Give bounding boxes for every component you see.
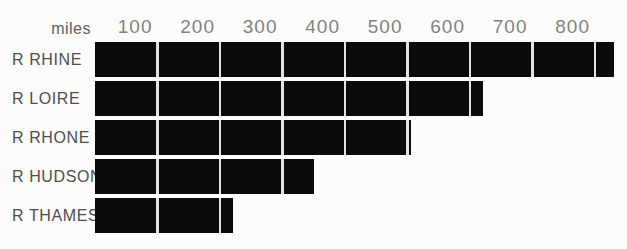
gridline [406, 81, 409, 116]
bar [95, 42, 614, 77]
category-label: R RHINE [12, 42, 82, 77]
category-label: R THAMES [12, 198, 99, 233]
category-label: R LOIRE [12, 81, 80, 116]
category-label: R HUDSON [12, 159, 102, 194]
gridline [344, 120, 347, 155]
river-lengths-bar-chart: miles 100200300400500600700800 R RHINER … [0, 0, 627, 249]
gridline [531, 42, 534, 77]
gridline [219, 198, 222, 233]
axis-tick-label: 100 [113, 16, 153, 38]
gridline [406, 42, 409, 77]
bar [95, 81, 483, 116]
gridline [156, 42, 159, 77]
gridline [156, 159, 159, 194]
axis-tick-label: 400 [300, 16, 340, 38]
bar [95, 198, 233, 233]
gridline [156, 81, 159, 116]
bar [95, 159, 314, 194]
gridline [219, 81, 222, 116]
gridline [406, 120, 409, 155]
gridline [469, 42, 472, 77]
gridline [344, 42, 347, 77]
gridline [469, 81, 472, 116]
gridline [156, 120, 159, 155]
gridline [219, 42, 222, 77]
gridline [344, 81, 347, 116]
gridline [281, 120, 284, 155]
axis-tick-label: 200 [175, 16, 215, 38]
axis-tick-label: 700 [488, 16, 528, 38]
axis-tick-label: 500 [363, 16, 403, 38]
bar [95, 120, 411, 155]
gridline [281, 42, 284, 77]
axis-tick-label: 800 [550, 16, 590, 38]
gridline [281, 159, 284, 194]
gridline [219, 159, 222, 194]
gridline [156, 198, 159, 233]
gridline [219, 120, 222, 155]
gridline [594, 42, 597, 77]
axis-unit-label: miles [0, 20, 91, 38]
axis-tick-label: 300 [238, 16, 278, 38]
category-label: R RHONE [12, 120, 90, 155]
gridline [281, 81, 284, 116]
axis-tick-label: 600 [425, 16, 465, 38]
